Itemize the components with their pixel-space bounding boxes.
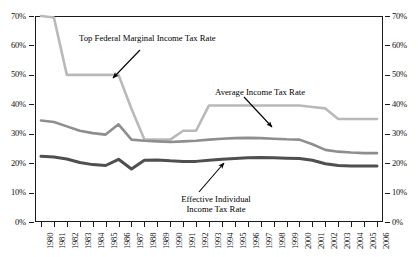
annotation-average: Average Income Tax Rate bbox=[215, 87, 305, 97]
arrow-effective bbox=[199, 163, 224, 192]
annotation-top-marginal: Top Federal Marginal Income Tax Rate bbox=[79, 33, 216, 43]
tax-rates-line-chart: 70%60%50%40%30%20%10%0% 70%60%50%40%30%2… bbox=[0, 0, 418, 257]
arrow-top-marginal bbox=[113, 50, 140, 78]
annotation-top-marginal-line-1: Top Federal Marginal Income Tax Rate bbox=[79, 33, 216, 43]
annotation-average-line-1: Average Income Tax Rate bbox=[215, 87, 305, 97]
annotation-effective: Effective Individual Income Tax Rate bbox=[164, 194, 268, 215]
arrow-average bbox=[244, 97, 272, 127]
annotation-effective-line-1: Effective Individual bbox=[164, 194, 268, 204]
annotation-effective-line-2: Income Tax Rate bbox=[164, 204, 268, 214]
